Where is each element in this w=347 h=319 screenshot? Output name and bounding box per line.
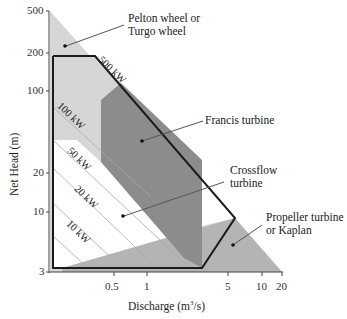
y-axis-title: Net Head (m) xyxy=(8,133,20,196)
x-axis-title: Discharge (m3/s) xyxy=(128,299,205,312)
y-tick-3: 3 xyxy=(39,265,45,277)
x-tick-1: 1 xyxy=(144,280,150,292)
y-tick-20: 20 xyxy=(33,166,44,178)
y-tick-100: 100 xyxy=(27,84,44,96)
crossflow-label: Crossflow turbine xyxy=(230,164,277,190)
x-tick-5: 5 xyxy=(225,280,231,292)
francis-label: Francis turbine xyxy=(205,114,274,127)
y-tick-200: 200 xyxy=(27,46,44,58)
turbine-selection-diagram xyxy=(0,0,347,319)
propeller-label: Propeller turbine or Kaplan xyxy=(266,211,344,237)
x-tick-20: 20 xyxy=(276,280,287,292)
pelton-label: Pelton wheel or Turgo wheel xyxy=(128,12,200,38)
y-tick-10: 10 xyxy=(33,205,44,217)
x-tick-10: 10 xyxy=(256,280,267,292)
y-tick-500: 500 xyxy=(27,4,44,16)
x-tick-0-5: 0.5 xyxy=(105,280,119,292)
